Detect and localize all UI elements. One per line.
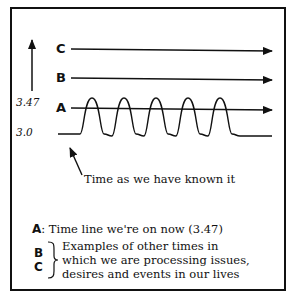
legend-a-text: : Time line we're on now (3.47) <box>41 222 223 236</box>
legend-c-key: C <box>34 260 43 274</box>
y-tick-3-47: 3.47 <box>16 96 39 108</box>
y-tick-3-0: 3.0 <box>16 126 33 138</box>
legend-b-key: B <box>34 246 43 260</box>
line-label-a: A <box>56 100 66 115</box>
timeline-c-arrow <box>71 49 272 51</box>
legend-bc-line-3: desires and events in our lives <box>62 267 250 281</box>
legend-bc-text: Examples of other times in which we are … <box>62 239 250 281</box>
timeline-a-arrow <box>71 108 272 110</box>
timeline-b-arrow <box>71 78 272 80</box>
timeline-wave <box>58 98 272 136</box>
line-label-b: B <box>56 70 66 85</box>
legend-bc-line-2: which we are processing issues, <box>62 253 250 267</box>
brace-icon <box>48 242 58 278</box>
pointer-arrow-icon <box>70 148 82 175</box>
legend-a: A: Time line we're on now (3.47) <box>32 218 223 237</box>
legend-bc-line-1: Examples of other times in <box>62 239 250 253</box>
pointer-caption: Time as we have known it <box>84 172 235 186</box>
legend-a-key: A <box>32 222 41 236</box>
line-label-c: C <box>56 41 66 56</box>
